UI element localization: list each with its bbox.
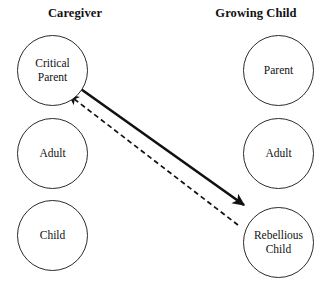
transactional-analysis-diagram: Caregiver Growing Child Critical Parent … (0, 0, 326, 284)
ego-state-label: Adult (263, 147, 293, 160)
ego-state-caregiver-child[interactable]: Child (17, 200, 88, 271)
ego-state-rebellious-child[interactable]: Rebellious Child (243, 207, 314, 278)
ego-state-label: Parent (262, 64, 295, 77)
arrow-response-dashed (69, 95, 238, 225)
ego-state-caregiver-adult[interactable]: Adult (17, 118, 88, 189)
ego-state-label: Rebellious Child (252, 229, 305, 255)
arrow-stimulus-solid (78, 87, 244, 205)
ego-state-label: Adult (37, 147, 67, 160)
column-header-growing-child: Growing Child (186, 6, 326, 21)
ego-state-child-adult[interactable]: Adult (243, 118, 314, 189)
ego-state-label: Child (38, 229, 68, 242)
column-header-caregiver: Caregiver (0, 6, 150, 21)
ego-state-critical-parent[interactable]: Critical Parent (17, 35, 88, 106)
ego-state-child-parent[interactable]: Parent (243, 35, 314, 106)
ego-state-label: Critical Parent (33, 57, 72, 83)
